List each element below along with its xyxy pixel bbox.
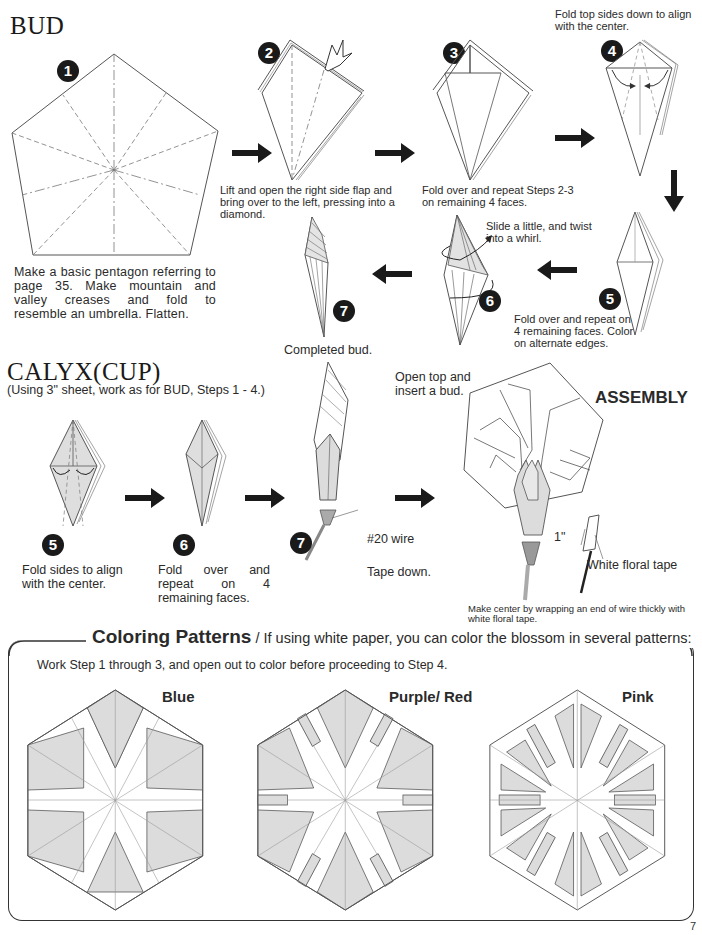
tape-length-label: 1"	[554, 530, 565, 544]
coloring-title: Coloring Patterns	[92, 626, 251, 647]
page-number: 7	[690, 920, 696, 932]
wire-label: #20 wire	[367, 532, 414, 546]
coloring-header: Coloring Patterns / If using white paper…	[88, 626, 695, 648]
coloring-subtitle: / If using white paper, you can color th…	[251, 630, 691, 646]
calyx-step-5-diagram	[45, 418, 115, 528]
calyx-step-number-6: 6	[173, 534, 195, 556]
arrow-left-icon	[535, 260, 577, 280]
step-4-caption: Fold top sides down to align with the ce…	[555, 8, 702, 32]
calyx-step-6-diagram	[180, 418, 240, 528]
frame-top-left	[8, 638, 88, 658]
step-number-7: 7	[333, 300, 355, 322]
step-7-caption: Completed bud.	[284, 343, 372, 357]
arrow-right-icon	[395, 488, 437, 508]
pattern-purple-red-hexagon	[258, 688, 433, 910]
pattern-pink-hexagon	[490, 688, 665, 910]
arrow-right-icon	[555, 128, 597, 148]
step-number-5: 5	[599, 288, 621, 310]
arrow-left-icon	[370, 264, 412, 284]
step-number-6: 6	[479, 290, 501, 312]
completed-bud-diagram	[300, 215, 340, 340]
step-5-caption: Fold over and repeat on 4 remaining face…	[514, 313, 634, 349]
arrow-down-icon	[664, 170, 684, 214]
step-4-diagram	[600, 40, 702, 180]
assembly-caption: Make center by wrapping an end of wire t…	[468, 604, 702, 624]
calyx-step-5-caption: Fold sides to align with the center.	[22, 563, 142, 591]
calyx-title: CALYX(CUP)	[7, 358, 161, 386]
tape-label: White floral tape	[587, 558, 677, 572]
arrow-right-icon	[245, 488, 287, 508]
step-3-diagram	[425, 35, 555, 185]
pattern-blue-hexagon	[28, 688, 203, 910]
tape-down-label: Tape down.	[367, 565, 431, 579]
calyx-step-number-7: 7	[290, 532, 312, 554]
calyx-step-7-diagram	[300, 360, 380, 580]
step-1-caption: Make a basic pentagon referring to page …	[14, 265, 216, 321]
calyx-step-number-5: 5	[42, 534, 64, 556]
calyx-subtitle: (Using 3" sheet, work as for BUD, Steps …	[7, 383, 265, 397]
floral-tape-diagram	[575, 515, 615, 595]
step-3-caption: Fold over and repeat Steps 2-3 on remain…	[422, 184, 582, 208]
coloring-instruction: Work Step 1 through 3, and open out to c…	[37, 658, 447, 672]
step-6-caption: Slide a little, and twist into a whirl.	[486, 220, 606, 244]
arrow-right-icon	[125, 488, 167, 508]
arrow-right-icon	[375, 143, 417, 163]
calyx-step-6-caption: Fold over and repeat on 4 remaining face…	[158, 563, 270, 605]
pentagon-diagram	[0, 0, 240, 270]
